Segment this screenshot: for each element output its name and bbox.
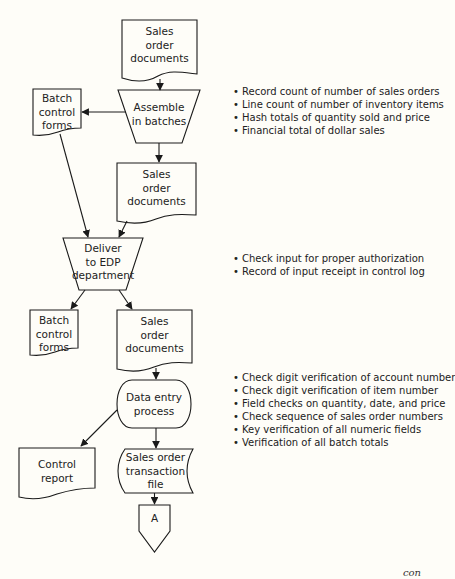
edge-docs2-to-deliver: [119, 221, 127, 237]
annotation-item: Field checks on quantity, date, and pric…: [233, 397, 455, 410]
edge-batch-forms-1-to-deliver: [60, 134, 88, 237]
annotation-item: Financial total of dollar sales: [233, 124, 444, 137]
node-label-control-report: Control report: [19, 458, 95, 485]
node-label-sales-docs-3: Sales order documents: [117, 315, 192, 356]
annotation-list-assemble-controls: Record count of number of sales orders L…: [233, 85, 444, 137]
node-label-batch-forms-2: Batch control forms: [30, 314, 78, 355]
node-label-assemble: Assemble in batches: [125, 101, 193, 128]
annotation-list-deliver-controls: Check input for proper authorization Rec…: [233, 252, 425, 278]
node-label-transaction-file: Sales order transaction file: [118, 451, 193, 492]
annotation-item: Verification of all batch totals: [233, 436, 455, 449]
node-label-sales-docs-2: Sales order documents: [117, 168, 196, 209]
annotation-item: Record of input receipt in control log: [233, 265, 425, 278]
annotation-item: Hash totals of quantity sold and price: [233, 111, 444, 124]
edge-deliver-to-batch-forms-2: [71, 290, 85, 309]
annotation-item: Line count of number of inventory items: [233, 98, 444, 111]
annotation-list-data-entry-controls: Check digit verification of account numb…: [233, 371, 455, 449]
annotation-item: Check sequence of sales order numbers: [233, 410, 455, 423]
node-label-sales-docs-1: Sales order documents: [122, 25, 197, 66]
annotation-item: Check input for proper authorization: [233, 252, 425, 265]
annotation-item: Record count of number of sales orders: [233, 85, 444, 98]
node-label-data-entry: Data entry process: [117, 391, 191, 418]
node-label-deliver: Deliver to EDP department: [68, 242, 138, 283]
node-label-connector-a: A: [139, 512, 170, 526]
annotation-item: Key verification of all numeric fields: [233, 423, 455, 436]
edge-deliver-to-docs3: [119, 290, 132, 309]
edge-data-entry-to-control-report: [81, 410, 117, 446]
annotation-item: Check digit verification of account numb…: [233, 371, 455, 384]
continued-marker: con: [403, 567, 421, 578]
node-label-batch-forms-1: Batch control forms: [33, 92, 81, 133]
annotation-item: Check digit verification of item number: [233, 384, 455, 397]
